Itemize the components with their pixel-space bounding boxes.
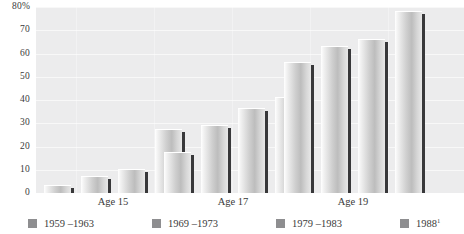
y-axis-tick-30: 30 xyxy=(20,118,30,128)
legend-item-2[interactable]: 1969 –1973 xyxy=(152,218,218,229)
legend-swatch-icon-1 xyxy=(28,219,37,228)
legend-item-4[interactable]: 19881 xyxy=(400,218,440,229)
y-axis-tick-80: 80% xyxy=(12,2,30,12)
texture-band-0 xyxy=(76,7,77,193)
y-axis-tick-50: 50 xyxy=(20,72,30,82)
y-axis-tick-20: 20 xyxy=(20,142,30,152)
y-axis-tick-60: 60 xyxy=(20,49,30,59)
bar-age-15-series-3 xyxy=(118,169,145,193)
legend-item-1[interactable]: 1959 –1963 xyxy=(28,218,94,229)
y-axis-tick-10: 10 xyxy=(20,165,30,175)
x-axis-labels: Age 15Age 17Age 19 xyxy=(0,196,464,212)
bar-age-19-series-2 xyxy=(321,46,348,193)
texture-band-2 xyxy=(232,7,233,193)
legend-swatch-icon-3 xyxy=(276,219,285,228)
bar-age-15-series-2 xyxy=(81,176,108,193)
legend-footnote-marker: 1 xyxy=(437,217,440,224)
y-axis-tick-40: 40 xyxy=(20,95,30,105)
legend-label-2: 1969 –1973 xyxy=(168,218,218,229)
gridline-80 xyxy=(36,7,464,8)
y-axis: 01020304050607080% xyxy=(0,0,34,200)
x-axis-label-age-17: Age 17 xyxy=(218,196,249,208)
bar-age-17-series-1 xyxy=(164,152,191,193)
bar-age-17-series-2 xyxy=(201,125,228,193)
legend-label-3: 1979 –1983 xyxy=(292,218,342,229)
legend-item-3[interactable]: 1979 –1983 xyxy=(276,218,342,229)
x-axis-label-age-15: Age 15 xyxy=(98,196,129,208)
bar-age-15-series-1 xyxy=(44,185,71,193)
texture-band-4 xyxy=(388,7,389,193)
legend-label-4: 19881 xyxy=(416,218,440,229)
legend-label-1: 1959 –1963 xyxy=(44,218,94,229)
bar-age-19-series-3 xyxy=(358,39,385,193)
bar-chart: 01020304050607080% Age 15Age 17Age 19 19… xyxy=(0,0,464,234)
bar-age-17-series-3 xyxy=(238,108,265,193)
y-axis-tick-70: 70 xyxy=(20,25,30,35)
legend-swatch-icon-2 xyxy=(152,219,161,228)
bar-age-19-series-4 xyxy=(395,11,422,193)
chart-legend: 1959 –19631969 –19731979 –198319881 xyxy=(0,215,464,234)
x-axis-label-age-19: Age 19 xyxy=(338,196,369,208)
bar-age-19-series-1 xyxy=(284,62,311,193)
plot-area xyxy=(36,7,464,193)
legend-swatch-icon-4 xyxy=(400,219,409,228)
